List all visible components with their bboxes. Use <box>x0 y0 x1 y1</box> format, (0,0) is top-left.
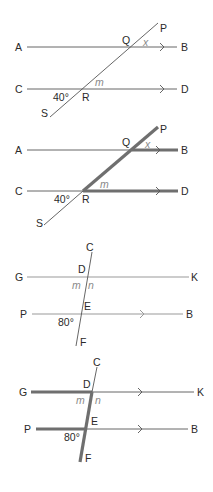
angle-x: x <box>142 36 149 48</box>
label-e: E <box>84 300 91 312</box>
label-s: S <box>41 107 48 119</box>
label-g: G <box>15 271 23 283</box>
angle-x: x <box>144 138 151 150</box>
angle-n: n <box>95 394 101 406</box>
label-a: A <box>15 144 22 156</box>
angle-40: 40° <box>54 193 70 205</box>
label-b: B <box>181 144 188 156</box>
label-d: D <box>181 83 189 95</box>
label-b: B <box>186 308 193 320</box>
label-c: C <box>93 356 101 368</box>
label-c: C <box>15 185 23 197</box>
label-p: P <box>160 123 167 135</box>
figure-2: A B C D P Q R S x m 40° <box>15 123 189 229</box>
label-d: D <box>181 185 189 197</box>
label-e: E <box>91 415 98 427</box>
label-c: C <box>86 241 94 253</box>
label-k: K <box>191 271 198 283</box>
label-k: K <box>197 386 204 398</box>
label-p: P <box>24 423 31 435</box>
angle-80: 80° <box>58 316 74 328</box>
label-p: P <box>160 22 167 34</box>
line-cd <box>92 367 97 392</box>
label-p: P <box>20 308 27 320</box>
angle-m: m <box>100 178 109 190</box>
angle-m: m <box>76 394 85 406</box>
label-q: Q <box>122 34 130 46</box>
label-f: F <box>80 336 86 348</box>
label-d: D <box>83 378 91 390</box>
label-q: Q <box>122 136 130 148</box>
label-d: D <box>78 263 86 275</box>
figure-1: A B C D P Q R S x m 40° <box>15 22 189 119</box>
label-b: B <box>181 41 188 53</box>
label-b: B <box>191 423 198 435</box>
highlight-pr <box>83 127 158 191</box>
label-c: C <box>15 83 23 95</box>
label-g: G <box>19 386 27 398</box>
parallel-lines-diagrams: A B C D P Q R S x m 40° A B C D P Q R S … <box>0 0 213 492</box>
label-r: R <box>82 193 90 205</box>
angle-40: 40° <box>53 91 69 103</box>
label-r: R <box>82 91 90 103</box>
label-s: S <box>36 217 43 229</box>
angle-m: m <box>95 76 104 88</box>
label-a: A <box>15 41 22 53</box>
angle-m: m <box>72 279 81 291</box>
figure-4: C D E F G K P B m n 80° <box>19 356 204 464</box>
angle-n: n <box>88 279 94 291</box>
angle-80: 80° <box>64 431 80 443</box>
figure-3: C D E F G K P B m n 80° <box>15 241 198 348</box>
label-f: F <box>85 452 91 464</box>
